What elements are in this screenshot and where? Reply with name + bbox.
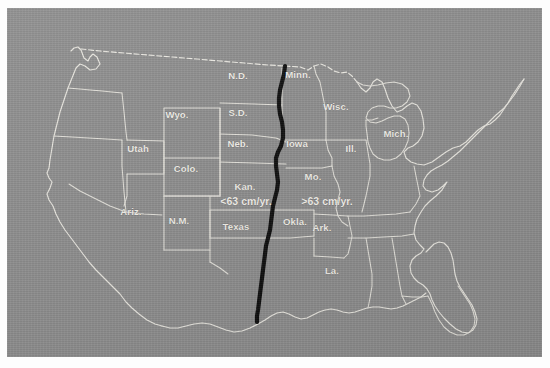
state-label-nd: N.D. xyxy=(228,70,248,81)
state-label-ill: Ill. xyxy=(345,143,356,154)
state-label-ariz: Ariz. xyxy=(120,206,141,217)
michigan-outline xyxy=(357,82,410,160)
state-label-neb: Neb. xyxy=(227,138,248,149)
state-label-iowa: Iowa xyxy=(286,138,308,149)
state-label-texas: Texas xyxy=(223,221,250,232)
border-nm-south xyxy=(164,250,210,262)
border-id-west xyxy=(122,93,127,140)
border-ms-al-ga xyxy=(366,238,372,308)
map-plate: N.D.S.D.Neb.Wyo.UtahColo.Kan.Ariz.N.M.Te… xyxy=(7,8,542,357)
state-label-sd: S.D. xyxy=(228,107,247,118)
border-ok-tx xyxy=(210,236,314,238)
state-label-okla: Okla. xyxy=(283,216,307,227)
state-label-la: La. xyxy=(325,265,339,276)
figure-root: N.D.S.D.Neb.Wyo.UtahColo.Kan.Ariz.N.M.Te… xyxy=(0,0,550,368)
border-mo-ar xyxy=(314,214,348,216)
canada-border-north xyxy=(81,49,285,66)
border-ar-la xyxy=(314,256,344,258)
border-ar-east xyxy=(344,216,352,258)
border-tn-ms-al xyxy=(348,234,414,238)
us-precipitation-map: N.D.S.D.Neb.Wyo.UtahColo.Kan.Ariz.N.M.Te… xyxy=(7,8,542,357)
border-or-ca xyxy=(54,136,122,140)
atlantic-coast-outline xyxy=(410,79,524,333)
border-al-ga xyxy=(392,238,406,304)
state-label-utah: Utah xyxy=(127,143,149,154)
border-oh-wv-pa xyxy=(410,166,420,212)
annotation-east-of-line: >63 cm/yr. xyxy=(301,195,353,207)
annotation-label-group: <63 cm/yr.>63 cm/yr. xyxy=(220,195,353,207)
border-tx-west xyxy=(210,262,228,274)
gulf-coast-outline xyxy=(162,293,426,332)
border-ia-east xyxy=(326,140,332,166)
border-nd-sd xyxy=(220,103,282,105)
state-label-kan: Kan. xyxy=(234,181,255,192)
state-label-colo: Colo. xyxy=(174,163,198,174)
border-wa-or xyxy=(68,88,122,93)
border-ga-fl xyxy=(402,296,428,297)
state-label-nm: N.M. xyxy=(169,215,190,226)
west-coast-outline xyxy=(47,47,162,326)
border-il-in-oh xyxy=(362,140,370,212)
border-ca-nv-diag xyxy=(69,184,126,212)
annotation-west-of-line: <63 cm/yr. xyxy=(220,195,272,207)
state-label-wisc: Wisc. xyxy=(323,101,348,112)
state-label-ark: Ark. xyxy=(312,222,331,233)
great-lakes-and-northeast-outline xyxy=(357,79,524,165)
national-outline-group xyxy=(47,47,524,333)
state-label-mich: Mich. xyxy=(383,128,408,139)
state-label-minn: Minn. xyxy=(285,69,311,80)
border-ia-mo xyxy=(286,166,332,168)
florida-outline xyxy=(428,286,475,335)
border-ky-tn xyxy=(348,212,410,216)
state-label-mo: Mo. xyxy=(305,171,322,182)
state-label-wyo: Wyo. xyxy=(165,109,188,120)
